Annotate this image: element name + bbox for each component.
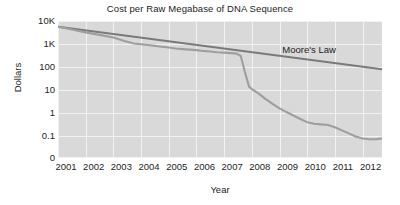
y-tick-label: 0.1 [3,131,55,141]
x-axis-title: Year [58,184,382,195]
x-tick-label: 2012 [354,161,388,172]
y-tick-label: 0 [3,153,55,163]
series-layer [58,21,382,158]
y-axis-ticks: 10K1K1001010.10 [0,0,55,205]
y-tick-label: 10K [3,16,55,26]
y-tick-label: 1 [3,108,55,118]
chart-title: Cost per Raw Megabase of DNA Sequence [0,3,400,14]
moores-law-annotation: Moore's Law [282,44,336,55]
plot-area [58,21,382,158]
y-axis-title: Dollars [12,48,23,108]
chart-container: Cost per Raw Megabase of DNA Sequence 10… [0,0,400,205]
